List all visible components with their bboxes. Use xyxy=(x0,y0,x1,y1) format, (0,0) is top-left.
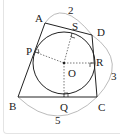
label-s: S xyxy=(72,20,78,32)
measure-dc: 3 xyxy=(111,70,117,82)
measure-bc: 5 xyxy=(55,114,61,126)
label-b: B xyxy=(9,100,16,112)
radii xyxy=(35,33,94,97)
center-point xyxy=(63,62,66,65)
measure-ad: 2 xyxy=(68,4,74,16)
label-p: P xyxy=(26,45,32,57)
label-c: C xyxy=(98,101,105,113)
label-q: Q xyxy=(60,101,68,113)
label-d: D xyxy=(97,26,105,38)
geometry-diagram: A D B C O P Q R S 2 3 5 xyxy=(0,0,120,136)
label-r: R xyxy=(96,56,104,68)
arc-ad xyxy=(45,13,92,35)
label-o: O xyxy=(68,67,76,79)
right-angle-marks xyxy=(35,33,94,97)
label-a: A xyxy=(35,12,43,24)
